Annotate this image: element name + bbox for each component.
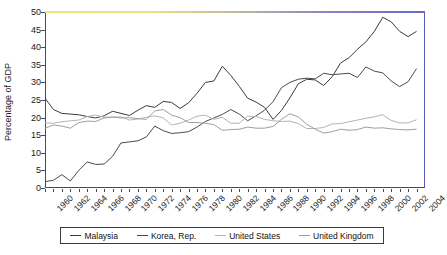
legend-item-united-kingdom: United Kingdom bbox=[299, 231, 373, 241]
x-tickmark-1997 bbox=[357, 189, 358, 192]
x-tickmark-1990 bbox=[298, 189, 299, 192]
legend-label: Korea, Rep. bbox=[151, 231, 196, 241]
legend-swatch-icon bbox=[215, 235, 226, 236]
x-tick-label-2002: 2002 bbox=[409, 193, 429, 213]
x-tick-label-1976: 1976 bbox=[190, 193, 210, 213]
plot-area bbox=[45, 12, 425, 188]
x-tick-label-1986: 1986 bbox=[274, 193, 294, 213]
x-tickmark-1974 bbox=[163, 189, 164, 192]
x-tick-label-1980: 1980 bbox=[223, 193, 243, 213]
legend-label: United Kingdom bbox=[313, 231, 373, 241]
x-tick-label-1962: 1962 bbox=[71, 193, 91, 213]
x-tickmark-1987 bbox=[273, 189, 274, 192]
x-tickmark-1968 bbox=[113, 189, 114, 192]
series-lines bbox=[45, 12, 425, 188]
x-tick-label-1996: 1996 bbox=[359, 193, 379, 213]
x-tick-label-1990: 1990 bbox=[308, 193, 328, 213]
x-tickmark-1961 bbox=[53, 189, 54, 192]
x-tick-label-2004: 2004 bbox=[426, 193, 446, 213]
x-tickmark-1989 bbox=[290, 189, 291, 192]
legend-item-malaysia: Malaysia bbox=[70, 231, 118, 241]
series-line-united-kingdom bbox=[45, 110, 417, 134]
x-tickmark-1972 bbox=[146, 189, 147, 192]
series-line-united-states bbox=[45, 115, 417, 129]
legend-swatch-icon bbox=[299, 235, 310, 236]
x-tickmark-1967 bbox=[104, 189, 105, 192]
legend-swatch-icon bbox=[137, 235, 148, 236]
x-tickmark-1996 bbox=[349, 189, 350, 192]
legend-label: United States bbox=[229, 231, 280, 241]
x-tickmark-1981 bbox=[222, 189, 223, 192]
x-tickmark-2001 bbox=[391, 189, 392, 192]
x-tickmark-1984 bbox=[248, 189, 249, 192]
x-tickmark-1970 bbox=[129, 189, 130, 192]
x-tickmark-1993 bbox=[324, 189, 325, 192]
x-tickmark-1969 bbox=[121, 189, 122, 192]
x-tickmark-1965 bbox=[87, 189, 88, 192]
y-axis-tick-marks bbox=[0, 12, 45, 188]
x-tick-label-1968: 1968 bbox=[122, 193, 142, 213]
x-tickmark-1973 bbox=[155, 189, 156, 192]
x-tick-label-1994: 1994 bbox=[342, 193, 362, 213]
x-tickmark-1971 bbox=[138, 189, 139, 192]
x-tick-label-2000: 2000 bbox=[392, 193, 412, 213]
x-tickmark-1982 bbox=[231, 189, 232, 192]
x-tickmark-1980 bbox=[214, 189, 215, 192]
legend-swatch-icon bbox=[70, 235, 81, 236]
x-tickmark-2000 bbox=[383, 189, 384, 192]
x-tickmark-1992 bbox=[315, 189, 316, 192]
x-tickmark-1985 bbox=[256, 189, 257, 192]
x-tickmark-2004 bbox=[417, 189, 418, 192]
x-tick-label-1972: 1972 bbox=[156, 193, 176, 213]
series-line-korea-rep bbox=[45, 67, 417, 182]
x-tick-label-1984: 1984 bbox=[257, 193, 277, 213]
x-tickmark-2002 bbox=[400, 189, 401, 192]
x-tick-label-1978: 1978 bbox=[207, 193, 227, 213]
x-tick-label-1960: 1960 bbox=[55, 193, 75, 213]
x-tickmark-1962 bbox=[62, 189, 63, 192]
x-tickmark-1995 bbox=[341, 189, 342, 192]
series-line-malaysia bbox=[45, 17, 417, 119]
legend-item-korea-rep: Korea, Rep. bbox=[137, 231, 196, 241]
x-tickmark-1978 bbox=[197, 189, 198, 192]
x-tickmark-1986 bbox=[265, 189, 266, 192]
x-tickmark-1988 bbox=[281, 189, 282, 192]
x-tickmark-2003 bbox=[408, 189, 409, 192]
x-tick-label-1966: 1966 bbox=[105, 193, 125, 213]
x-tickmark-1979 bbox=[205, 189, 206, 192]
x-tick-label-1992: 1992 bbox=[325, 193, 345, 213]
x-tick-label-1982: 1982 bbox=[240, 193, 260, 213]
top-border-gradient bbox=[45, 11, 425, 13]
x-tickmark-1977 bbox=[189, 189, 190, 192]
x-tickmark-1960 bbox=[45, 189, 46, 192]
x-tickmark-1994 bbox=[332, 189, 333, 192]
x-tickmark-1975 bbox=[172, 189, 173, 192]
x-tickmark-1999 bbox=[374, 189, 375, 192]
legend-item-united-states: United States bbox=[215, 231, 280, 241]
x-tick-label-1970: 1970 bbox=[139, 193, 159, 213]
x-tickmark-1991 bbox=[307, 189, 308, 192]
x-tick-label-1998: 1998 bbox=[375, 193, 395, 213]
x-tickmark-1983 bbox=[239, 189, 240, 192]
x-tickmark-1976 bbox=[180, 189, 181, 192]
legend-label: Malaysia bbox=[84, 231, 118, 241]
x-tick-label-1974: 1974 bbox=[173, 193, 193, 213]
x-tickmark-1998 bbox=[366, 189, 367, 192]
x-tickmark-1963 bbox=[70, 189, 71, 192]
x-tickmark-1966 bbox=[96, 189, 97, 192]
x-tick-label-1964: 1964 bbox=[88, 193, 108, 213]
chart-legend: MalaysiaKorea, Rep.United StatesUnited K… bbox=[60, 227, 384, 244]
x-tick-label-1988: 1988 bbox=[291, 193, 311, 213]
x-tickmark-1964 bbox=[79, 189, 80, 192]
